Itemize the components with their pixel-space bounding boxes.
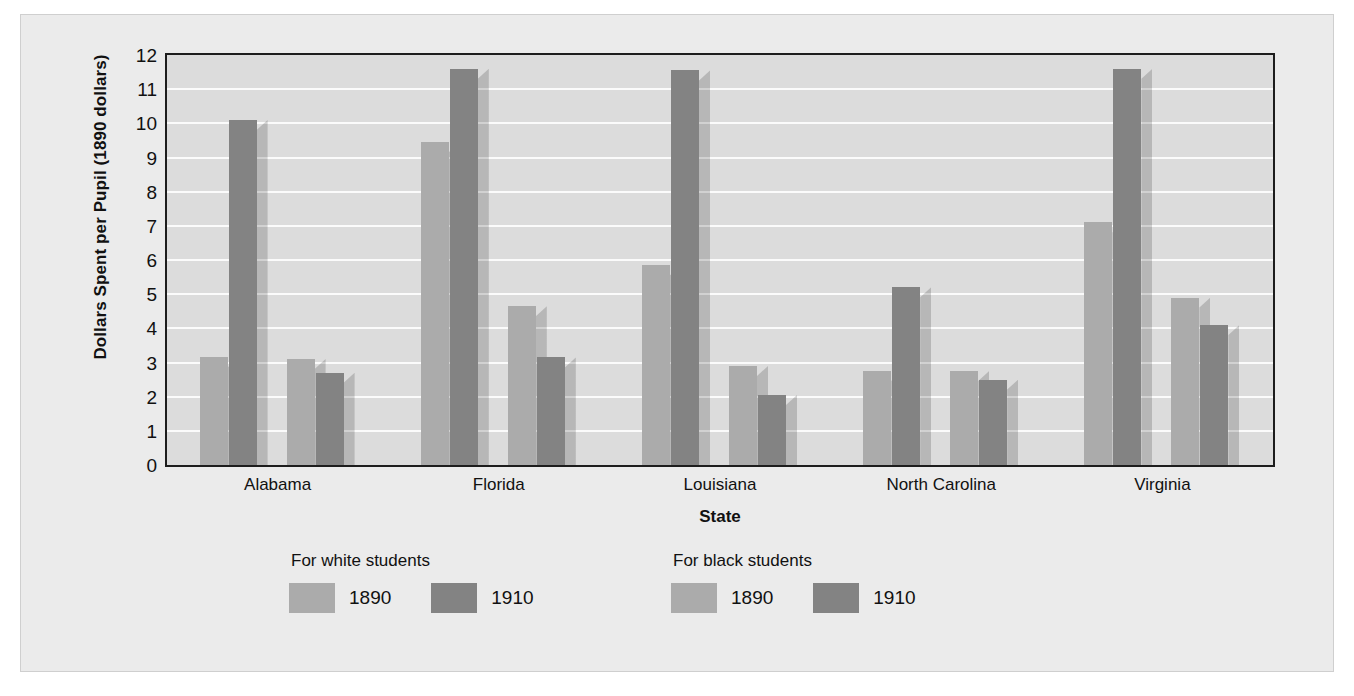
legend-group: For white students18901910 — [289, 551, 534, 613]
bar — [316, 373, 344, 465]
y-axis-tick-label: 1 — [146, 421, 157, 440]
chart-plot-region: Dollars Spent per Pupil (1890 dollars) 0… — [21, 15, 1335, 515]
bar — [863, 371, 891, 465]
y-axis-tick-label: 8 — [146, 182, 157, 201]
bar — [508, 306, 536, 465]
x-axis-tick-label: Alabama — [244, 475, 311, 495]
legend-entries: 18901910 — [289, 583, 534, 613]
chart-card: Dollars Spent per Pupil (1890 dollars) 0… — [20, 14, 1334, 672]
y-axis-tick-label: 11 — [137, 80, 157, 99]
bar — [729, 366, 757, 465]
x-axis-tick-labels: AlabamaFloridaLouisianaNorth CarolinaVir… — [165, 475, 1275, 503]
bar — [1200, 325, 1228, 465]
bar — [421, 142, 449, 465]
legend-group-title: For black students — [673, 551, 916, 571]
y-axis-tick-label: 12 — [136, 46, 157, 65]
bar — [758, 395, 786, 465]
x-axis-title: State — [165, 507, 1275, 527]
bar — [979, 380, 1007, 465]
y-axis-tick-label: 5 — [146, 285, 157, 304]
y-axis-tick-label: 9 — [146, 148, 157, 167]
x-axis-tick-label: North Carolina — [886, 475, 996, 495]
legend-group: For black students18901910 — [671, 551, 916, 613]
legend-entries: 18901910 — [671, 583, 916, 613]
bar — [1171, 298, 1199, 465]
bar — [537, 357, 565, 465]
y-axis-title: Dollars Spent per Pupil (1890 dollars) — [91, 7, 111, 407]
legend-label: 1910 — [491, 587, 533, 609]
y-axis-tick-label: 4 — [146, 319, 157, 338]
bar — [287, 359, 315, 465]
legend-swatch — [813, 583, 859, 613]
x-axis-tick-label: Virginia — [1134, 475, 1190, 495]
legend-swatch — [671, 583, 717, 613]
legend-label: 1890 — [731, 587, 773, 609]
plot-area — [165, 53, 1275, 467]
legend-group-title: For white students — [291, 551, 534, 571]
y-axis-tick-label: 3 — [146, 353, 157, 372]
bar — [642, 265, 670, 465]
legend-label: 1910 — [873, 587, 915, 609]
y-axis-tick-label: 10 — [136, 114, 157, 133]
legend-swatch — [289, 583, 335, 613]
bar — [200, 357, 228, 465]
x-axis-tick-label: Florida — [473, 475, 525, 495]
bar — [450, 69, 478, 465]
legend-swatch — [431, 583, 477, 613]
bar — [1113, 69, 1141, 465]
bar — [1084, 222, 1112, 465]
y-axis-tick-label: 6 — [146, 251, 157, 270]
y-axis-tick-label: 2 — [146, 387, 157, 406]
y-axis-tick-label: 0 — [146, 456, 157, 475]
legend-label: 1890 — [349, 587, 391, 609]
bar — [229, 120, 257, 465]
y-axis-tick-label: 7 — [146, 216, 157, 235]
bar — [950, 371, 978, 465]
bar — [892, 287, 920, 465]
x-axis-tick-label: Louisiana — [684, 475, 757, 495]
chart-legend: For white students18901910For black stud… — [21, 551, 1335, 641]
bar-series-container — [167, 55, 1273, 465]
bar — [671, 70, 699, 465]
y-axis-tick-labels: 0123456789101112 — [117, 53, 157, 463]
